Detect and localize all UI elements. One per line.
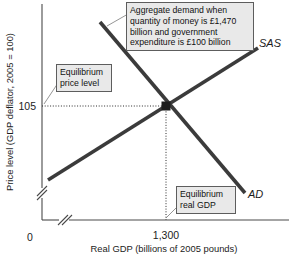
x-tick-label-1300: 1,300 [153, 229, 179, 241]
equilibrium-price-level-note-box: Equilibrium price level [56, 64, 112, 92]
ad-note-line-3: billion and government [130, 27, 250, 38]
equilibrium-real-gdp-note-box: Equilibrium real GDP [176, 186, 236, 214]
x-tick-label-origin: 0 [27, 231, 33, 243]
gdp-note-line-1: Equilibrium [180, 189, 232, 200]
ad-curve-label: AD [247, 188, 263, 200]
aggregate-demand-supply-chart: 105 0 1,300 Real GDP (billions of 2005 p… [0, 0, 293, 257]
y-tick-label-105: 105 [18, 100, 36, 112]
x-axis-title: Real GDP (billions of 2005 pounds) [91, 243, 238, 254]
gdp-note-line-2: real GDP [180, 200, 232, 211]
ad-note-line-2: quantity of money is £1,470 [130, 16, 250, 27]
price-note-line-2: price level [60, 78, 108, 89]
sas-curve-label: SAS [259, 37, 282, 49]
ad-note-leader-line [107, 14, 128, 26]
price-note-line-1: Equilibrium [60, 67, 108, 78]
ad-note-line-4: expenditure is £100 billion [130, 37, 250, 48]
aggregate-demand-note-box: Aggregate demand when quantity of money … [126, 2, 254, 51]
equilibrium-point-marker [162, 102, 171, 111]
ad-note-line-1: Aggregate demand when [130, 5, 250, 16]
y-axis-title: Price level (GDP deflator, 2005 = 100) [4, 33, 15, 191]
